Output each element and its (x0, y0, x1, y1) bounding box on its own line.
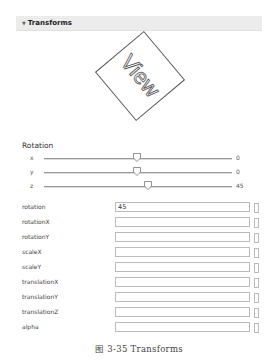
property-label: translationX (22, 278, 58, 285)
rotation-z-slider-row: z 45 (0, 181, 278, 193)
slider-value: 0 (236, 168, 240, 175)
property-spinner[interactable] (254, 323, 259, 333)
scaleY-input[interactable] (115, 262, 250, 272)
translationY-input[interactable] (115, 292, 250, 302)
property-spinner[interactable] (254, 263, 259, 273)
property-spinner[interactable] (254, 203, 259, 213)
figure-caption: 图 3-35 Transforms (0, 342, 278, 354)
rotationY-input[interactable] (115, 232, 250, 242)
property-spinner[interactable] (254, 233, 259, 243)
slider-axis-label: z (30, 182, 33, 189)
property-spinner[interactable] (254, 218, 259, 228)
property-row-rotation: rotation (0, 202, 278, 214)
property-label: rotationY (22, 233, 49, 240)
property-row-translationY: translationY (0, 292, 278, 304)
property-spinner[interactable] (254, 278, 259, 288)
property-label: alpha (22, 323, 39, 330)
property-label: scaleX (22, 248, 42, 255)
property-label: translationZ (22, 308, 58, 315)
rotation-z-slider-track[interactable] (44, 186, 232, 188)
rotation-section-label: Rotation (22, 141, 53, 150)
rotation-y-slider-thumb[interactable] (133, 167, 141, 176)
rotation-z-slider-thumb[interactable] (144, 181, 152, 190)
panel-title: Transforms (28, 19, 72, 27)
rotation-input[interactable] (115, 202, 250, 212)
scaleX-input[interactable] (115, 247, 250, 257)
property-row-rotationX: rotationX (0, 217, 278, 229)
rotation-x-slider-thumb[interactable] (133, 153, 141, 162)
property-label: rotation (22, 203, 46, 210)
property-row-scaleY: scaleY (0, 262, 278, 274)
alpha-input[interactable] (115, 322, 250, 332)
rotation-y-slider-row: y 0 (0, 167, 278, 179)
view-preview: View (108, 44, 172, 108)
triangle-down-icon[interactable]: ▼ (22, 20, 26, 26)
property-label: scaleY (22, 263, 41, 270)
property-row-translationX: translationX (0, 277, 278, 289)
property-row-rotationY: rotationY (0, 232, 278, 244)
translationX-input[interactable] (115, 277, 250, 287)
property-spinner[interactable] (254, 293, 259, 303)
view-label: View (115, 50, 165, 103)
transforms-panel-header[interactable]: ▼ Transforms (16, 16, 262, 31)
slider-value: 0 (236, 154, 240, 161)
rotationX-input[interactable] (115, 217, 250, 227)
rotated-view-box: View (95, 31, 185, 121)
property-spinner[interactable] (254, 308, 259, 318)
property-spinner[interactable] (254, 248, 259, 258)
property-row-translationZ: translationZ (0, 307, 278, 319)
property-row-alpha: alpha (0, 322, 278, 334)
property-row-scaleX: scaleX (0, 247, 278, 259)
property-label: rotationX (22, 218, 50, 225)
slider-value: 45 (236, 182, 244, 189)
rotation-x-slider-row: x 0 (0, 153, 278, 165)
slider-axis-label: x (30, 154, 34, 161)
translationZ-input[interactable] (115, 307, 250, 317)
slider-axis-label: y (30, 168, 34, 175)
property-label: translationY (22, 293, 58, 300)
